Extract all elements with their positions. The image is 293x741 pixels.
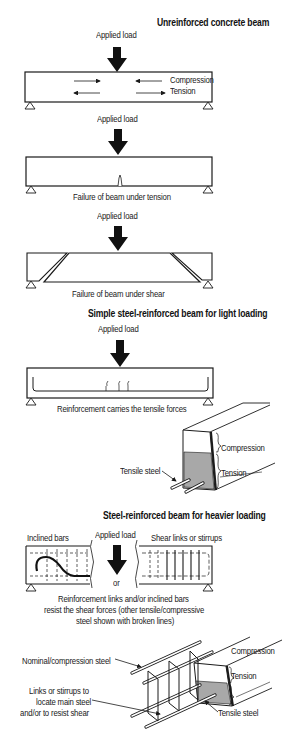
tension-label: Tension <box>170 86 195 96</box>
inclined-bars-label: Inclined bars <box>27 533 69 543</box>
break-line <box>91 540 94 588</box>
load-label: Applied load <box>96 30 137 40</box>
heavy-loading-title: Steel-reinforced beam for heavier loadin… <box>103 511 266 521</box>
nominal-steel-label: Nominal/compression steel <box>22 656 111 666</box>
load-arrow-icon <box>107 47 127 72</box>
section-tension-label: Tension <box>221 468 246 478</box>
heavy-caption-line-3: steel shown with broken lines) <box>76 616 174 626</box>
light-loading-caption: Reinforcement carries the tensile forces <box>57 404 186 414</box>
load-arrow-icon <box>107 545 127 575</box>
load-arrow-icon <box>108 129 128 155</box>
section-tension-label: Tension <box>231 671 256 681</box>
or-label: or <box>113 578 120 588</box>
unreinforced-title: Unreinforced concrete beam <box>157 18 269 28</box>
load-label: Applied load <box>95 530 136 540</box>
support-right-icon <box>203 398 213 405</box>
support-right-icon <box>203 186 213 193</box>
load-arrow-icon <box>108 226 128 251</box>
light-loading-title: Simple steel-reinforced beam for light l… <box>88 309 267 319</box>
beam <box>27 368 213 398</box>
links-label-line-1: Links or stirrups to <box>29 686 89 696</box>
tensile-steel-label: Tensile steel <box>120 466 160 476</box>
tension-failure-panel <box>26 129 213 193</box>
compression-label: Compression <box>170 75 214 85</box>
support-left-icon <box>26 186 36 193</box>
tension-failure-caption: Failure of beam under tension <box>73 192 171 202</box>
load-label: Applied load <box>98 324 139 334</box>
tensile-steel-label: Tensile steel <box>218 708 258 718</box>
shear-failure-panel <box>26 226 213 288</box>
support-left-icon <box>25 102 35 109</box>
support-right-icon <box>203 102 213 109</box>
load-label: Applied load <box>97 114 138 124</box>
support-left-icon <box>26 398 36 405</box>
support-left-icon <box>26 281 36 288</box>
support-right-icon <box>203 281 213 288</box>
heavy-caption-line-1: Reinforcement links and/or inclined bars <box>58 594 189 604</box>
load-label: Applied load <box>97 211 138 221</box>
section-compression-label: Compression <box>221 443 265 453</box>
heavy-caption-line-2: resist the shear forces (other tensile/c… <box>44 605 204 615</box>
links-label-line-2: locate main steel <box>36 697 91 707</box>
support-right-icon <box>203 584 213 591</box>
load-arrow-icon <box>110 340 130 367</box>
shear-failure-caption: Failure of beam under shear <box>72 289 165 299</box>
support-left-icon <box>26 584 36 591</box>
inclined-bar <box>36 557 90 576</box>
links-label-line-3: and/or to resist shear <box>20 708 89 718</box>
stirrups-label: Shear links or stirrups <box>151 533 222 543</box>
section-compression-label: Compression <box>231 646 275 656</box>
diagram-canvas <box>0 0 293 741</box>
break-line <box>136 540 139 588</box>
